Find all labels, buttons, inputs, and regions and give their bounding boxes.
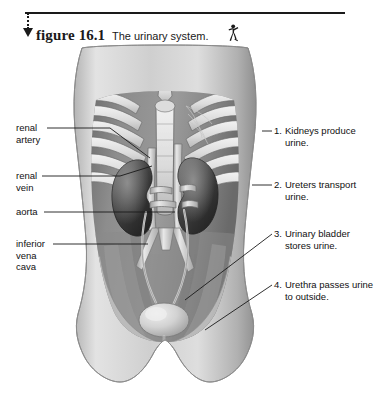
callout-kidneys: 1. Kidneys produce urine.	[274, 125, 376, 148]
callout-kidneys-number: 1.	[274, 125, 282, 148]
figure-caption: figure 16.1 The urinary system.	[36, 22, 239, 44]
urinary-bladder	[139, 303, 189, 337]
down-arrow-marker	[23, 13, 33, 39]
callout-ureters-text: Ureters transport urine.	[285, 179, 376, 202]
label-renal-artery-line-2: artery	[16, 134, 40, 146]
label-renal-artery: renal artery	[16, 122, 40, 145]
marker-dotted-stem	[27, 13, 29, 29]
callout-ureters: 2. Ureters transport urine.	[274, 179, 376, 202]
label-renal-vein-line-2: vein	[16, 182, 37, 194]
vertebral-column	[155, 100, 175, 215]
label-aorta: aorta	[16, 206, 38, 218]
callout-urinary-bladder-number: 3.	[274, 228, 282, 251]
running-human-figure-icon	[225, 24, 239, 46]
label-inferior-vena-cava-line-3: cava	[16, 261, 45, 273]
label-renal-vein: renal vein	[16, 170, 37, 193]
figure-caption-number: 16.1	[79, 27, 105, 44]
callout-urinary-bladder: 3. Urinary bladder stores urine.	[274, 228, 376, 251]
callout-urethra-number: 4.	[274, 279, 282, 302]
label-inferior-vena-cava-line-1: inferior	[16, 238, 45, 250]
figure-caption-title: The urinary system.	[112, 30, 209, 42]
callout-urethra-text: Urethra passes urine to outside.	[285, 279, 376, 302]
figure-caption-label: figure	[36, 27, 75, 44]
groin-cleft	[159, 340, 172, 382]
label-renal-artery-line-1: renal	[16, 122, 40, 134]
marker-arrowhead	[23, 28, 33, 37]
callout-urethra: 4. Urethra passes urine to outside.	[274, 279, 376, 302]
callout-ureters-number: 2.	[274, 179, 282, 202]
urinary-system-anatomical-illustration	[60, 44, 270, 384]
callout-kidneys-text: Kidneys produce urine.	[285, 125, 376, 148]
label-aorta-line-1: aorta	[16, 206, 38, 218]
label-inferior-vena-cava: inferior vena cava	[16, 238, 45, 273]
label-inferior-vena-cava-line-2: vena	[16, 250, 45, 262]
callout-urinary-bladder-text: Urinary bladder stores urine.	[285, 228, 376, 251]
label-renal-vein-line-1: renal	[16, 170, 37, 182]
figure-header-rule	[25, 12, 345, 14]
